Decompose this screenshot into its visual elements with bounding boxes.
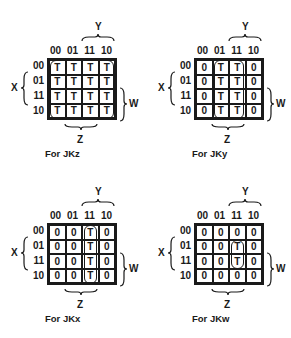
col-header: 11	[228, 45, 245, 56]
kmap-grid: TTTTTTTTTTTTTTTT	[47, 58, 117, 120]
kmap-cell: 0	[196, 75, 213, 90]
w-label: W	[129, 99, 138, 109]
y-brace-icon	[228, 199, 262, 207]
kmap-jkw: Y 0001111000011110 X000000T000T00000 W Z…	[147, 185, 287, 335]
kmap-cell: 0	[99, 254, 116, 269]
kmap-cell: 0	[49, 269, 66, 284]
x-label: X	[158, 248, 165, 258]
col-header: 01	[211, 210, 228, 221]
kmap-cell: 0	[66, 269, 83, 284]
row-header: 10	[175, 105, 191, 116]
kmap-cell: T	[229, 89, 246, 104]
kmap-cell: T	[66, 89, 83, 104]
kmap-cell: T	[49, 60, 66, 75]
kmap-cell: 0	[66, 225, 83, 240]
x-label: X	[158, 83, 165, 93]
kmap-cell: 0	[196, 254, 213, 269]
row-header: 11	[175, 255, 191, 266]
map-caption: For JKy	[192, 148, 227, 159]
kmap-cell: 0	[196, 269, 213, 284]
row-header: 01	[175, 240, 191, 251]
kmap-cell: 0	[66, 254, 83, 269]
row-header: 11	[175, 90, 191, 101]
kmap-cell: 0	[229, 225, 246, 240]
row-header: 10	[175, 270, 191, 281]
col-header: 01	[211, 45, 228, 56]
col-header: 00	[194, 210, 211, 221]
x-label: X	[11, 83, 18, 93]
kmap-cell: 0	[246, 89, 263, 104]
z-brace-icon	[64, 288, 98, 296]
kmap-cell: T	[49, 89, 66, 104]
kmap-cell: 0	[213, 225, 230, 240]
col-header: 11	[81, 210, 98, 221]
kmap-cell: 0	[49, 225, 66, 240]
w-label: W	[129, 264, 138, 274]
kmap-jky: Y 0001111000011110 X0TT00TT00TT00TT0 W Z…	[147, 20, 287, 170]
kmap-cell: T	[49, 75, 66, 90]
row-header: 11	[28, 90, 44, 101]
y-brace-icon	[81, 34, 115, 42]
kmap-cell: 0	[246, 240, 263, 255]
kmap-cell: 0	[196, 225, 213, 240]
z-label: Z	[77, 300, 83, 310]
kmap-cell: T	[82, 225, 99, 240]
z-brace-icon	[64, 123, 98, 131]
col-header: 00	[47, 210, 64, 221]
kmap-cell: T	[66, 60, 83, 75]
kmap-cell: 0	[66, 240, 83, 255]
row-header: 10	[28, 270, 44, 281]
kmap-cell: 0	[213, 254, 230, 269]
kmap-cell: T	[82, 60, 99, 75]
w-brace-icon	[119, 252, 127, 288]
kmap-cell: T	[229, 240, 246, 255]
kmap-cell: T	[99, 75, 116, 90]
col-header: 01	[64, 210, 81, 221]
kmap-cell: 0	[213, 269, 230, 284]
y-label: Y	[95, 22, 102, 32]
kmap-cell: T	[82, 75, 99, 90]
kmap-jkz: Y 0001111000011110 XTTTTTTTTTTTTTTTT W Z…	[0, 20, 140, 170]
kmap-grid: 00T000T000T000T0	[47, 223, 117, 285]
z-label: Z	[224, 135, 230, 145]
x-label: X	[11, 248, 18, 258]
x-brace-icon	[168, 71, 176, 107]
z-brace-icon	[211, 288, 245, 296]
kmap-cell: T	[229, 254, 246, 269]
z-brace-icon	[211, 123, 245, 131]
x-brace-icon	[168, 236, 176, 272]
row-header: 01	[28, 240, 44, 251]
kmap-grid: 0TT00TT00TT00TT0	[194, 58, 264, 120]
col-header: 10	[98, 45, 115, 56]
row-header: 10	[28, 105, 44, 116]
kmap-cell: T	[82, 240, 99, 255]
col-header: 10	[245, 45, 262, 56]
kmap-cell: 0	[196, 240, 213, 255]
kmap-cell: T	[213, 75, 230, 90]
kmap-grid: 000000T000T00000	[194, 223, 264, 285]
kmap-cell: 0	[99, 240, 116, 255]
kmap-cell: T	[82, 269, 99, 284]
col-header: 11	[228, 210, 245, 221]
x-brace-icon	[21, 71, 29, 107]
kmap-cell: 0	[99, 269, 116, 284]
kmap-cell: 0	[246, 104, 263, 119]
map-caption: For JKx	[45, 313, 80, 324]
kmap-cell: 0	[196, 60, 213, 75]
y-label: Y	[242, 187, 249, 197]
row-header: 00	[175, 225, 191, 236]
kmap-cell: T	[99, 104, 116, 119]
kmap-cell: 0	[229, 269, 246, 284]
y-brace-icon	[228, 34, 262, 42]
kmap-cell: 0	[196, 89, 213, 104]
w-brace-icon	[266, 252, 274, 288]
col-header: 10	[245, 210, 262, 221]
col-header: 00	[47, 45, 64, 56]
col-header: 00	[194, 45, 211, 56]
kmap-cell: T	[82, 89, 99, 104]
kmap-jkx: Y 0001111000011110 X00T000T000T000T0 W Z…	[0, 185, 140, 335]
kmap-cell: 0	[246, 269, 263, 284]
kmap-cell: T	[213, 89, 230, 104]
kmap-cell: T	[66, 75, 83, 90]
kmap-cell: 0	[246, 75, 263, 90]
